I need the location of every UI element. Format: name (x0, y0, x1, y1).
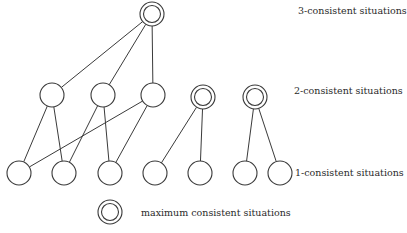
edge-m5-b7 (259, 108, 277, 161)
node-b4 (143, 161, 167, 185)
node-m1 (40, 83, 64, 107)
edge-m4-b5 (200, 109, 202, 161)
level-2-label: 2-consistent situations (294, 85, 403, 96)
node-b7 (268, 161, 292, 185)
level-3-label: 3-consistent situations (298, 5, 407, 16)
edge-m1-b1 (24, 106, 48, 162)
maximal-node-m5 (243, 85, 267, 109)
edge-m5-b6 (247, 109, 254, 161)
edge-m1-b2 (54, 107, 62, 161)
node-b6 (233, 161, 257, 185)
node-m2 (91, 83, 115, 107)
legend-double-circle-icon (98, 200, 122, 224)
node-b5 (188, 161, 212, 185)
node-b1 (7, 161, 31, 185)
node-b2 (52, 161, 76, 185)
legend-symbol-node (98, 200, 122, 224)
edge-t1-m1 (61, 22, 142, 88)
node-b3 (98, 161, 122, 185)
edge-m2-b3 (104, 107, 109, 161)
maximal-node-m4 (191, 85, 215, 109)
edge-t1-m3 (152, 26, 153, 83)
nodes (7, 2, 292, 185)
legend-label: maximum consistent situations (141, 207, 291, 218)
node-m3 (141, 83, 165, 107)
edge-m2-b2 (69, 106, 97, 163)
level-1-label: 1-consistent situations (295, 167, 404, 178)
maximal-node-t1 (140, 2, 164, 26)
edge-m4-b4 (161, 107, 196, 163)
edge-m3-b1 (29, 101, 142, 167)
